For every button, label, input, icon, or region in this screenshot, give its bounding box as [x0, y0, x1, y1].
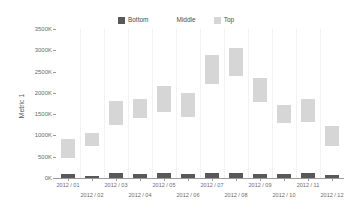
bar-group[interactable]: [157, 29, 171, 178]
y-tick-mark: [53, 72, 56, 73]
bar-group[interactable]: [61, 29, 75, 178]
x-tick-label: 2012 / 12: [321, 192, 344, 199]
x-tick-label: 2012 / 11: [297, 182, 320, 189]
y-tick-mark: [53, 178, 56, 179]
y-tick-mark: [53, 93, 56, 94]
bar-segment-middle[interactable]: [109, 125, 123, 174]
x-tick-mark: [116, 178, 117, 181]
bar-segment-top[interactable]: [229, 48, 243, 76]
x-tick-mark: [164, 178, 165, 181]
x-tick-mark: [188, 178, 189, 181]
bar-segment-top[interactable]: [277, 105, 291, 122]
category-separator: [200, 29, 201, 178]
x-tick-mark: [212, 178, 213, 181]
bar-group[interactable]: [133, 29, 147, 178]
y-tick-label: 1500K: [35, 111, 52, 118]
y-tick-label: 2500K: [35, 68, 52, 75]
bar-segment-middle[interactable]: [229, 76, 243, 173]
bar-group[interactable]: [205, 29, 219, 178]
bar-group[interactable]: [325, 29, 339, 178]
category-separator: [128, 29, 129, 178]
bar-segment-top[interactable]: [85, 133, 99, 146]
legend-label-middle: Middle: [176, 16, 195, 24]
x-tick-mark: [92, 178, 93, 181]
legend-swatch-bottom: [118, 17, 125, 24]
bar-segment-top[interactable]: [157, 86, 171, 112]
legend-item-bottom[interactable]: Bottom: [118, 16, 149, 24]
x-tick-label: 2012 / 05: [153, 182, 176, 189]
category-separator: [272, 29, 273, 178]
bar-segment-top[interactable]: [325, 126, 339, 146]
category-separator: [320, 29, 321, 178]
y-tick-mark: [53, 157, 56, 158]
legend-item-middle[interactable]: Middle: [166, 16, 195, 24]
bar-group[interactable]: [277, 29, 291, 178]
y-tick-label: 0K: [45, 175, 52, 182]
y-tick-mark: [53, 114, 56, 115]
x-tick-mark: [308, 178, 309, 181]
bar-segment-top[interactable]: [109, 101, 123, 124]
x-tick-label: 2012 / 03: [105, 182, 128, 189]
category-separator: [152, 29, 153, 178]
category-separator: [80, 29, 81, 178]
chart-container: Bottom Middle Top Metric 1 0K500K1000K15…: [0, 0, 352, 211]
bar-segment-middle[interactable]: [85, 146, 99, 176]
x-tick-label: 2012 / 01: [57, 182, 80, 189]
x-tick-mark: [68, 178, 69, 181]
x-tick-label: 2012 / 07: [201, 182, 224, 189]
x-tick-label: 2012 / 02: [81, 192, 104, 199]
category-separator: [104, 29, 105, 178]
legend-label-bottom: Bottom: [128, 16, 149, 24]
y-tick-label: 1000K: [35, 132, 52, 139]
bar-segment-middle[interactable]: [157, 112, 171, 173]
x-axis-line: [56, 178, 344, 179]
bar-group[interactable]: [229, 29, 243, 178]
bar-segment-top[interactable]: [301, 99, 315, 121]
x-tick-mark: [332, 178, 333, 181]
bar-segment-middle[interactable]: [325, 146, 339, 175]
bar-segment-middle[interactable]: [205, 84, 219, 173]
bar-segment-middle[interactable]: [133, 118, 147, 173]
y-tick-label: 3000K: [35, 47, 52, 54]
x-tick-mark: [260, 178, 261, 181]
bar-segment-middle[interactable]: [181, 117, 195, 174]
bar-segment-top[interactable]: [61, 139, 75, 158]
legend-label-top: Top: [224, 16, 234, 24]
y-tick-label: 2000K: [35, 89, 52, 96]
bar-segment-middle[interactable]: [277, 123, 291, 174]
category-separator: [296, 29, 297, 178]
category-separator: [224, 29, 225, 178]
x-tick-label: 2012 / 09: [249, 182, 272, 189]
bar-group[interactable]: [253, 29, 267, 178]
legend-swatch-middle: [166, 17, 173, 24]
x-tick-mark: [236, 178, 237, 181]
y-tick-mark: [53, 135, 56, 136]
y-tick-mark: [53, 29, 56, 30]
x-tick-mark: [140, 178, 141, 181]
x-tick-label: 2012 / 10: [273, 192, 296, 199]
bar-segment-top[interactable]: [133, 99, 147, 118]
x-tick-mark: [284, 178, 285, 181]
y-tick-label: 500K: [38, 153, 52, 160]
y-axis-title: Metric 1: [18, 93, 25, 118]
plot-area: 0K500K1000K1500K2000K2500K3000K3500K: [56, 29, 344, 178]
chart-legend: Bottom Middle Top: [0, 14, 352, 26]
y-tick-mark: [53, 50, 56, 51]
category-separator: [248, 29, 249, 178]
bar-group[interactable]: [181, 29, 195, 178]
bar-segment-top[interactable]: [205, 55, 219, 85]
bar-group[interactable]: [85, 29, 99, 178]
legend-swatch-top: [214, 17, 221, 24]
y-tick-label: 3500K: [35, 26, 52, 33]
bar-segment-middle[interactable]: [253, 102, 267, 174]
x-tick-label: 2012 / 08: [225, 192, 248, 199]
x-tick-label: 2012 / 04: [129, 192, 152, 199]
bar-segment-top[interactable]: [181, 93, 195, 117]
x-tick-label: 2012 / 06: [177, 192, 200, 199]
bar-group[interactable]: [301, 29, 315, 178]
legend-item-top[interactable]: Top: [214, 16, 234, 24]
bar-group[interactable]: [109, 29, 123, 178]
bar-segment-middle[interactable]: [301, 122, 315, 174]
bar-segment-middle[interactable]: [61, 158, 75, 174]
bar-segment-top[interactable]: [253, 78, 267, 102]
